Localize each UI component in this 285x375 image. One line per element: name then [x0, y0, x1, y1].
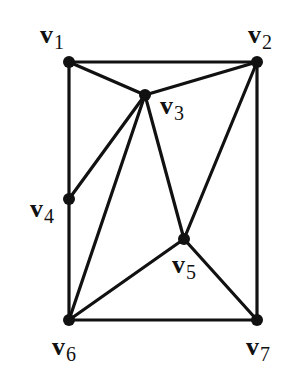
- label-subscript: 7: [260, 343, 270, 365]
- edge-v2-v5: [184, 62, 257, 239]
- vertex-v7: [251, 314, 263, 326]
- edge-v3-v6: [69, 95, 145, 320]
- label-base: v: [52, 332, 65, 361]
- graph-diagram: [0, 0, 285, 375]
- vertex-v3: [139, 89, 151, 101]
- label-base: v: [172, 250, 185, 279]
- label-subscript: 6: [66, 343, 76, 365]
- label-base: v: [160, 91, 173, 120]
- vertex-v2: [251, 56, 263, 68]
- vertex-label-v3: v3: [160, 93, 184, 119]
- label-base: v: [248, 20, 261, 49]
- vertex-v1: [63, 56, 75, 68]
- label-subscript: 5: [186, 261, 196, 283]
- vertex-label-v1: v1: [40, 22, 64, 48]
- vertex-v5: [178, 233, 190, 245]
- label-subscript: 4: [44, 205, 54, 227]
- label-subscript: 3: [174, 102, 184, 124]
- vertex-label-v5: v5: [172, 252, 196, 278]
- vertex-v4: [63, 193, 75, 205]
- edge-v5-v6: [69, 239, 184, 320]
- edge-v1-v3: [69, 62, 145, 95]
- label-base: v: [246, 332, 259, 361]
- vertex-label-v4: v4: [30, 196, 54, 222]
- vertex-label-v7: v7: [246, 334, 270, 360]
- label-subscript: 2: [262, 31, 272, 53]
- vertex-label-v2: v2: [248, 22, 272, 48]
- label-base: v: [40, 20, 53, 49]
- edge-v3-v4: [69, 95, 145, 199]
- vertex-v6: [63, 314, 75, 326]
- label-subscript: 1: [54, 31, 64, 53]
- label-base: v: [30, 194, 43, 223]
- vertex-label-v6: v6: [52, 334, 76, 360]
